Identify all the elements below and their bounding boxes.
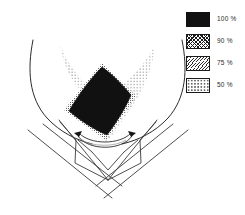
- legend: 100 % 90 % 75 % 50 %: [186, 8, 245, 96]
- legend-row-50: 50 %: [186, 74, 245, 96]
- swatch-75-icon: [186, 56, 210, 71]
- legend-label-90: 90 %: [217, 38, 233, 45]
- legend-row-100: 100 %: [186, 8, 245, 30]
- legend-label-75: 75 %: [217, 60, 233, 67]
- legend-row-90: 90 %: [186, 30, 245, 52]
- legend-label-100: 100 %: [217, 16, 236, 23]
- swatch-90-icon: [186, 34, 210, 49]
- figure-root: 100 % 90 % 75 % 50 %: [0, 0, 245, 215]
- swatch-100-icon: [186, 12, 210, 27]
- swatch-50-icon: [186, 78, 210, 93]
- legend-label-50: 50 %: [217, 82, 233, 89]
- legend-row-75: 75 %: [186, 52, 245, 74]
